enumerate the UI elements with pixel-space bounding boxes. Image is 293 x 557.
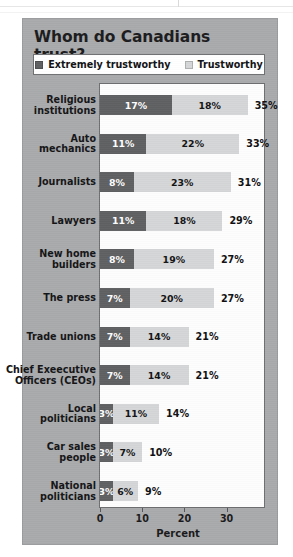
chart-legend: Extremely trustworthy Trustworthy [33,54,265,75]
bar-segment-extremely-trustworthy: 8% [100,249,134,269]
bar-segment-trustworthy: 6% [113,481,138,501]
bar-segment-value-trustworthy: 22% [182,138,204,149]
bar-segment-value-extremely-trustworthy: 3% [100,447,113,458]
x-axis: Percent 0102030 [22,508,278,548]
bar-row-label: Chief ExeecutiveOfficers (CEOs) [0,365,96,386]
bar-segment-value-extremely-trustworthy: 11% [112,138,134,149]
bar-row-label-line1: Lawyers [0,216,96,227]
bar-total-value: 9% [145,481,161,501]
bar-segment-value-trustworthy: 7% [119,447,135,458]
bar-segment-value-trustworthy: 14% [148,331,170,342]
stacked-bar: 7%14% [100,327,189,347]
bar-segment-value-extremely-trustworthy: 7% [107,370,123,381]
bar-segment-value-extremely-trustworthy: 7% [107,293,123,304]
legend-swatch-icon-extremely-trustworthy [35,61,43,69]
stacked-bar: 11%18% [100,211,222,231]
bar-total-value: 14% [166,404,189,424]
legend-item-trustworthy: Trustworthy [185,59,263,70]
bar-segment-extremely-trustworthy: 3% [100,442,113,462]
bar-row-label-line1: National [0,481,96,492]
legend-item-extremely-trustworthy: Extremely trustworthy [35,59,170,70]
bar-segment-trustworthy: 18% [172,95,248,115]
stacked-bar: 3%6% [100,481,138,501]
bar-segment-trustworthy: 22% [146,134,239,154]
bar-segment-value-extremely-trustworthy: 17% [125,100,147,111]
bar-segment-trustworthy: 14% [130,327,189,347]
bar-segment-extremely-trustworthy: 11% [100,211,146,231]
bar-row-label: Nationalpoliticians [0,481,96,502]
bar-row-label-line1: The press [0,293,96,304]
bar-row-label-line2: people [0,453,96,464]
bar-total-value: 35% [255,95,278,115]
bar-row-label: Trade unions [0,332,96,343]
stacked-bar: 3%11% [100,404,159,424]
x-axis-tick-mark [142,508,143,512]
x-axis-tick-mark [100,508,101,512]
bar-segment-value-trustworthy: 11% [125,408,147,419]
bar-row-label: The press [0,293,96,304]
stacked-bar: 3%7% [100,442,142,462]
x-axis-tick-mark [227,508,228,512]
bar-row-label: Lawyers [0,216,96,227]
stacked-bar: 8%23% [100,172,231,192]
bar-total-value: 27% [221,288,244,308]
bar-row-label-line2: Officers (CEOs) [0,376,96,387]
page-scan-edge-line [0,6,293,7]
bar-total-value: 29% [229,211,252,231]
bar-segment-extremely-trustworthy: 3% [100,481,113,501]
x-axis-tick-label: 0 [97,513,104,524]
stacked-bar: 7%14% [100,365,189,385]
bar-row-label: Journalists [0,177,96,188]
legend-label-trustworthy: Trustworthy [198,59,263,70]
bar-row-label: Religiousinstitutions [0,95,96,116]
legend-label-extremely-trustworthy: Extremely trustworthy [48,59,170,70]
stacked-bar: 7%20% [100,288,214,308]
bar-segment-value-extremely-trustworthy: 3% [100,408,113,419]
bar-segment-value-extremely-trustworthy: 7% [107,331,123,342]
bar-segment-value-trustworthy: 18% [173,215,195,226]
x-axis-title: Percent [22,528,278,539]
bar-segment-value-trustworthy: 20% [161,293,183,304]
bar-segment-extremely-trustworthy: 3% [100,404,113,424]
bar-total-value: 10% [149,442,172,462]
bar-row-label-line1: Religious [0,95,96,106]
bar-row-label-line2: mechanics [0,144,96,155]
bar-segment-extremely-trustworthy: 11% [100,134,146,154]
bar-segment-trustworthy: 14% [130,365,189,385]
bar-segment-value-extremely-trustworthy: 8% [109,177,125,188]
bar-segment-extremely-trustworthy: 7% [100,288,130,308]
bar-rows-container: Religiousinstitutions17%18%35%Automechan… [22,83,278,508]
stacked-bar: 17%18% [100,95,248,115]
bar-row-label-line1: Journalists [0,177,96,188]
x-axis-tick-label: 20 [178,513,191,524]
bar-row-label: Car salespeople [0,442,96,463]
stacked-bar: 8%19% [100,249,214,269]
bar-total-value: 33% [246,134,269,154]
bar-segment-value-trustworthy: 14% [148,370,170,381]
bar-row-label: Automechanics [0,134,96,155]
bar-segment-value-trustworthy: 18% [198,100,220,111]
bar-total-value: 21% [196,327,219,347]
x-axis-tick-mark [184,508,185,512]
bar-segment-value-extremely-trustworthy: 3% [100,486,113,497]
stacked-bar: 11%22% [100,134,239,154]
bar-segment-value-trustworthy: 23% [171,177,193,188]
page-scan-edge-line-secondary [0,12,293,13]
bar-segment-value-trustworthy: 6% [117,486,133,497]
bar-row-label: Localpoliticians [0,404,96,425]
bar-row-label-line2: builders [0,260,96,271]
bar-segment-value-extremely-trustworthy: 8% [109,254,125,265]
bar-segment-extremely-trustworthy: 17% [100,95,172,115]
chart-panel: Whom do Canadians trust? Extremely trust… [22,18,278,545]
bar-segment-trustworthy: 7% [113,442,143,462]
bar-total-value: 31% [238,172,261,192]
bar-segment-extremely-trustworthy: 8% [100,172,134,192]
bar-segment-extremely-trustworthy: 7% [100,365,130,385]
x-axis-tick-label: 10 [136,513,149,524]
x-axis-tick-label: 30 [220,513,233,524]
bar-row-label-line1: Trade unions [0,332,96,343]
bar-segment-trustworthy: 19% [134,249,214,269]
bar-segment-value-extremely-trustworthy: 11% [112,215,134,226]
bar-total-value: 21% [196,365,219,385]
bar-segment-trustworthy: 18% [146,211,222,231]
